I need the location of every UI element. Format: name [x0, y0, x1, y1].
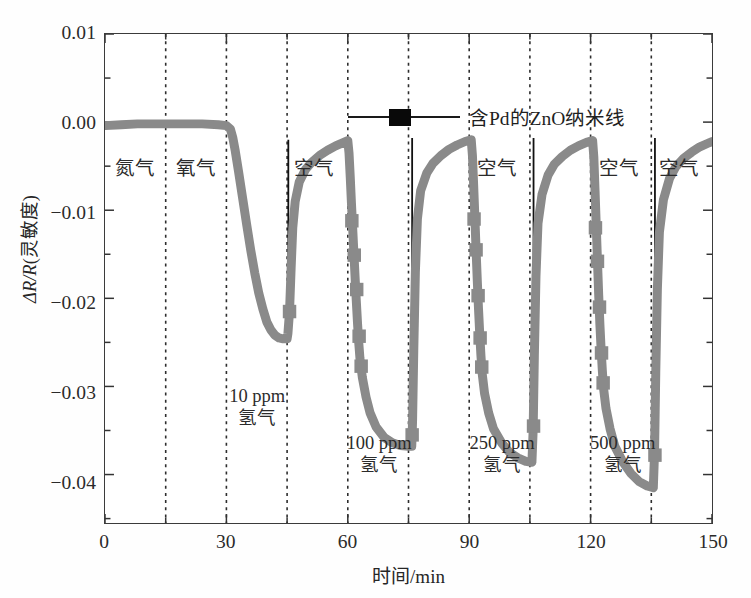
plot-area: 含Pd的ZnO纳米线 氮气氧气空气空气空气空气10 ppm氢气100 ppm氢气…	[104, 33, 713, 524]
series-square-marker	[469, 243, 482, 256]
series-square-marker	[348, 248, 361, 261]
gas-phase-label: 空气	[599, 158, 639, 180]
series-square-marker	[467, 212, 480, 225]
x-tick-label: 30	[216, 531, 236, 553]
series-square-marker	[471, 289, 484, 302]
concentration-label: 250 ppm氢气	[469, 433, 534, 476]
series-square-marker	[589, 221, 602, 234]
y-axis-title-symbol: ΔR/R	[20, 264, 40, 303]
concentration-label: 100 ppm氢气	[346, 433, 411, 476]
x-axis-title: 时间/min	[104, 561, 713, 588]
concentration-value: 100 ppm	[346, 433, 411, 454]
chart-figure: 0.01 0.00 −0.01 −0.02 −0.03 −0.04 ΔR/R(灵…	[0, 0, 751, 598]
x-tick-label: 120	[577, 531, 606, 553]
gas-phase-label: 氮气	[115, 158, 155, 180]
series-square-marker	[591, 255, 604, 268]
y-tick-label: 0.01	[4, 22, 96, 44]
series-square-marker	[593, 300, 606, 313]
x-axis-tick-labels: 0 30 60 90 120 150	[104, 531, 713, 559]
series-square-marker	[350, 283, 363, 296]
gas-phase-label: 空气	[294, 158, 334, 180]
gas-phase-label: 氧气	[176, 158, 216, 180]
series-square-marker	[345, 214, 358, 227]
series-square-marker	[354, 359, 367, 372]
series-square-marker	[595, 346, 608, 359]
concentration-value: 250 ppm	[469, 433, 534, 454]
concentration-value: 500 ppm	[590, 433, 655, 454]
series-square-marker	[527, 419, 540, 432]
y-axis-title-unit: (灵敏度)	[20, 195, 40, 264]
y-axis-title: ΔR/R(灵敏度)	[15, 129, 41, 369]
legend-square-marker-icon	[389, 109, 411, 126]
legend-sample	[348, 106, 460, 128]
concentration-label: 500 ppm氢气	[590, 433, 655, 476]
series-square-marker	[596, 376, 609, 389]
concentration-label: 10 ppm氢气	[229, 386, 285, 429]
series-square-marker	[283, 305, 296, 318]
x-tick-label: 0	[99, 531, 109, 553]
series-square-marker	[352, 329, 365, 342]
concentration-gas: 氢气	[229, 408, 285, 429]
legend: 含Pd的ZnO纳米线	[348, 102, 625, 131]
x-tick-label: 60	[338, 531, 358, 553]
series-square-marker	[475, 360, 488, 373]
gas-phase-label: 空气	[659, 158, 699, 180]
y-tick-label: −0.03	[4, 382, 96, 404]
series-square-marker	[473, 331, 486, 344]
concentration-gas: 氢气	[346, 455, 411, 476]
x-tick-label: 150	[698, 531, 727, 553]
gas-phase-label: 空气	[477, 158, 517, 180]
y-tick-label: −0.04	[4, 472, 96, 494]
concentration-gas: 氢气	[469, 455, 534, 476]
x-tick-label: 90	[460, 531, 480, 553]
legend-label: 含Pd的ZnO纳米线	[469, 102, 625, 131]
concentration-value: 10 ppm	[229, 386, 285, 407]
concentration-gas: 氢气	[590, 455, 655, 476]
